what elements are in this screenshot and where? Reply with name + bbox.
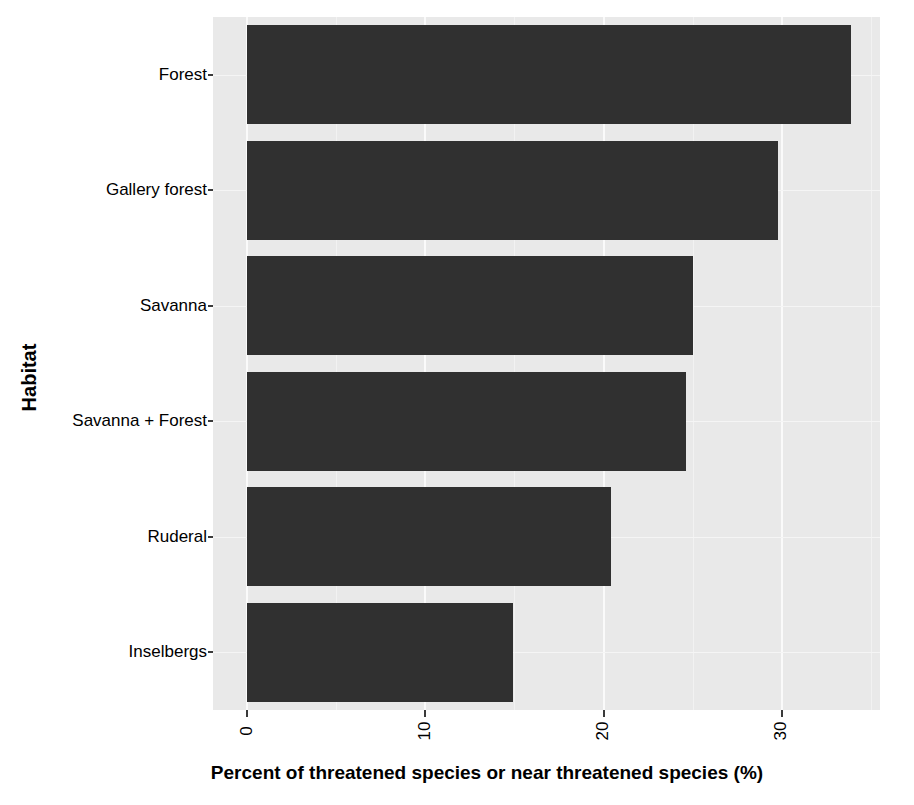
y-axis-title-text: Habitat: [19, 344, 42, 412]
bar: [247, 256, 693, 355]
bar: [247, 372, 686, 471]
y-axis-tick-label: Savanna: [140, 296, 207, 316]
bar: [247, 487, 611, 586]
x-axis-tick-mark: [246, 710, 248, 717]
gridline-minor-vertical: [871, 17, 872, 710]
bar-chart: Habitat ForestGallery forestSavannaSavan…: [0, 0, 914, 805]
x-axis-tick-label: 20: [593, 721, 615, 741]
y-axis-tick-label: Savanna + Forest: [72, 411, 207, 431]
x-axis-tick-label: 30: [771, 721, 793, 741]
x-axis-tick-mark: [603, 710, 605, 717]
bar: [247, 603, 513, 702]
x-axis-title: Percent of threatened species or near th…: [60, 762, 914, 784]
x-axis-tick-label: 10: [414, 721, 436, 741]
y-axis-tick-label: Ruderal: [147, 527, 207, 547]
y-axis-tick-label: Inselbergs: [129, 642, 207, 662]
y-axis-tick-labels: ForestGallery forestSavannaSavanna + For…: [40, 20, 215, 710]
bar: [247, 25, 852, 124]
y-axis-tick-label: Forest: [159, 65, 207, 85]
x-axis-tick-mark: [424, 710, 426, 717]
x-axis-tick-label: 0: [236, 721, 258, 741]
bar: [247, 141, 778, 240]
y-axis-tick-label: Gallery forest: [106, 180, 207, 200]
x-axis-tick-mark: [781, 710, 783, 717]
plot-panel: [213, 17, 880, 710]
x-axis-tick-labels: 0102030: [213, 710, 880, 765]
